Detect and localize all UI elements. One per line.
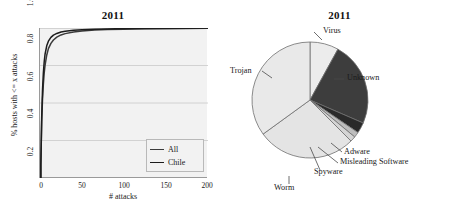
pie-slices [252,42,368,158]
pie-label-trojan: Trojan [230,66,252,75]
pie-label-adware: Adware [344,147,370,156]
ytick-0: 0.2 [26,141,35,161]
legend-item-chile[interactable]: Chile [150,156,203,169]
ytick-4: 1.0 [26,0,35,11]
pie-label-unknown: Unknown [347,73,379,82]
legend-line-icon-chile [150,162,164,163]
xtick-0: 0 [29,181,53,190]
xtick-3: 150 [154,181,178,190]
xtick-1: 50 [70,181,94,190]
legend-line-icon-all [150,149,164,150]
ytick-1: 0.4 [26,104,35,124]
line-chart-ylabel: % hosts with <= x attacks [10,35,19,155]
two-panel-figure: 2011 % hosts with <= x attacks 0.2 0.4 0… [0,0,453,223]
pie-label-virus: Virus [323,26,341,35]
ytick-2: 0.6 [26,66,35,86]
xtick-2: 100 [112,181,136,190]
xtick-4: 200 [195,181,219,190]
ytick-3: 0.8 [26,29,35,49]
line-chart-panel: 2011 % hosts with <= x attacks 0.2 0.4 0… [0,0,226,223]
legend-item-all[interactable]: All [150,143,203,156]
gridlines [40,29,208,141]
line-chart-legend[interactable]: All Chile [146,139,204,172]
pie-label-spyware: Spyware [314,167,343,176]
legend-label-chile: Chile [168,158,185,167]
pie-label-misleading: Misleading Software [340,157,408,166]
line-chart-xlabel: # attacks [39,192,207,201]
pie-label-worm: Worm [274,183,294,192]
legend-label-all: All [168,145,178,154]
pie-chart-panel: 2011 Virus Unknown Adware [226,0,453,223]
